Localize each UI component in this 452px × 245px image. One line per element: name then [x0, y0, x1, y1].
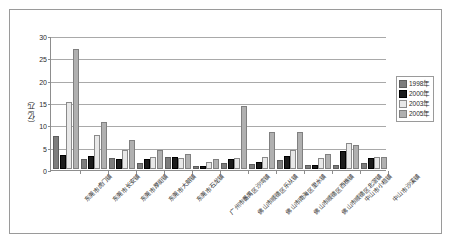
bar — [290, 150, 296, 169]
x-axis-tick-label: 东莞市厚街镇 — [139, 173, 169, 203]
bar — [206, 162, 212, 169]
x-axis-tick-mark — [360, 171, 361, 174]
bar — [101, 122, 107, 169]
bar — [340, 151, 346, 169]
bar — [346, 143, 352, 169]
bar — [221, 163, 227, 169]
x-axis-tick-label: 东莞市大朗镇 — [167, 173, 197, 203]
y-axis-tick-mark — [48, 59, 51, 60]
y-axis-tick-label: 25 — [39, 56, 47, 63]
bar-group — [360, 35, 388, 169]
x-axis-tick-mark — [248, 171, 249, 174]
bar — [144, 159, 150, 169]
chart-figure: （亿元） 051015202530 东莞市虎门镇东莞市长安镇东莞市厚街镇东莞市大… — [0, 0, 452, 245]
y-axis-tick-label: 15 — [39, 101, 47, 108]
y-axis-tick-label: 30 — [39, 34, 47, 41]
bar — [374, 157, 380, 169]
bar — [312, 165, 318, 169]
x-axis-tick-label: 东莞市石龙镇 — [195, 173, 225, 203]
bar-group — [164, 35, 192, 169]
bar — [73, 49, 79, 169]
bar — [241, 106, 247, 169]
bar-group — [136, 35, 164, 169]
bar — [66, 102, 72, 169]
bar-series-container — [52, 37, 386, 169]
legend-item: 2000年 — [399, 89, 430, 99]
legend-swatch-icon — [399, 100, 407, 108]
bar-group — [248, 35, 276, 169]
x-axis-tick-mark — [276, 171, 277, 174]
bar — [150, 157, 156, 169]
legend-label: 1998年 — [409, 81, 430, 88]
x-axis-tick-mark — [304, 171, 305, 174]
bar-group — [80, 35, 108, 169]
y-axis-tick-mark — [48, 171, 51, 172]
bar — [297, 132, 303, 169]
bar — [213, 159, 219, 169]
legend-swatch-icon — [399, 90, 407, 98]
bar — [234, 158, 240, 169]
y-axis-tick-mark — [48, 37, 51, 38]
legend-label: 2003年 — [409, 101, 430, 108]
legend-label: 2000年 — [409, 91, 430, 98]
y-axis-tick-mark — [48, 104, 51, 105]
chart-frame: （亿元） 051015202530 东莞市虎门镇东莞市长安镇东莞市厚街镇东莞市大… — [9, 9, 442, 234]
bar-group — [276, 35, 304, 169]
bar — [129, 140, 135, 169]
legend-swatch-icon — [399, 80, 407, 88]
y-axis-tick-mark — [48, 126, 51, 127]
bar — [305, 165, 311, 169]
bar — [165, 157, 171, 169]
chart-legend: 1998年2000年2003年2005年 — [396, 76, 434, 122]
plot-area: 051015202530 — [50, 37, 386, 171]
bar-group — [304, 35, 332, 169]
bar — [353, 145, 359, 169]
bar — [109, 158, 115, 169]
bar — [81, 159, 87, 169]
bar — [172, 157, 178, 169]
legend-item: 2005年 — [399, 109, 430, 119]
y-axis-tick-label: 20 — [39, 78, 47, 85]
bar — [284, 156, 290, 169]
bar — [53, 136, 59, 169]
bar — [193, 166, 199, 169]
bar-group — [220, 35, 248, 169]
x-axis-tick-label: 中山市沙溪镇 — [391, 173, 421, 203]
bar — [318, 158, 324, 169]
legend-item: 1998年 — [399, 79, 430, 89]
bar — [228, 159, 234, 169]
bar — [256, 162, 262, 169]
y-axis-tick-label: 5 — [43, 145, 47, 152]
bar — [94, 135, 100, 169]
bar-group — [192, 35, 220, 169]
y-axis-tick-mark — [48, 149, 51, 150]
x-axis-tick-mark — [80, 171, 81, 174]
legend-swatch-icon — [399, 110, 407, 118]
bar — [157, 150, 163, 169]
y-axis-tick-mark — [48, 82, 51, 83]
bar — [262, 157, 268, 169]
bar — [333, 165, 339, 169]
bar — [325, 154, 331, 169]
y-axis-tick-label: 0 — [43, 168, 47, 175]
y-axis-title: （亿元） — [26, 96, 37, 128]
bar — [178, 158, 184, 169]
bar — [137, 163, 143, 169]
bar — [116, 159, 122, 169]
bar — [368, 158, 374, 169]
bar — [122, 150, 128, 169]
bar — [249, 164, 255, 169]
bar — [200, 166, 206, 169]
bar-group — [108, 35, 136, 169]
bar — [60, 155, 66, 169]
legend-label: 2005年 — [409, 111, 430, 118]
x-axis-tick-mark — [332, 171, 333, 174]
legend-item: 2003年 — [399, 99, 430, 109]
bar — [185, 154, 191, 169]
y-axis-tick-label: 10 — [39, 123, 47, 130]
bar-group — [52, 35, 80, 169]
bar-group — [332, 35, 360, 169]
x-axis-tick-label: 东莞市虎门镇 — [83, 173, 113, 203]
bar — [361, 163, 367, 169]
bar — [88, 156, 94, 169]
